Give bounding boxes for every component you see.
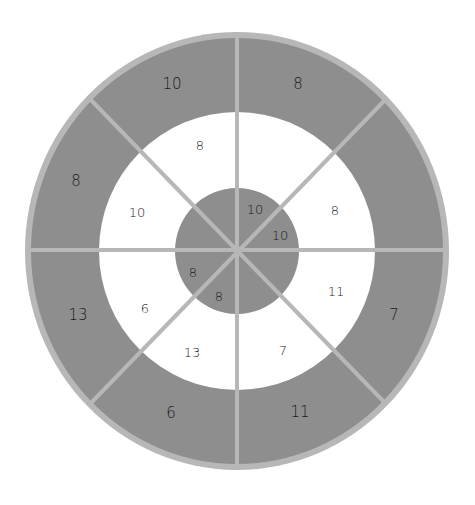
inner-label-right-top: 10: [272, 228, 289, 243]
ring-diagram: 10 8 8 13 7 6 11 8 10 8 11 6 13 7 10 10 …: [0, 0, 475, 505]
middle-label-left-top: 10: [129, 205, 146, 220]
outer-label-top-right: 8: [293, 75, 303, 93]
inner-label-bottom-left: 8: [215, 289, 223, 304]
middle-label-right-bottom: 11: [328, 284, 345, 299]
outer-label-left-bottom: 13: [68, 306, 87, 324]
outer-label-right-bottom: 7: [389, 306, 399, 324]
inner-label-left-bottom: 8: [189, 265, 197, 280]
outer-label-left-top: 8: [71, 172, 81, 190]
outer-label-bottom-left: 6: [166, 404, 176, 422]
inner-label-top-right: 10: [247, 202, 264, 217]
outer-label-top-left: 10: [162, 75, 181, 93]
middle-label-bottom-right: 7: [279, 343, 287, 358]
middle-label-bottom-left: 13: [184, 345, 201, 360]
middle-label-right-top: 8: [331, 203, 339, 218]
middle-label-top-left: 8: [196, 138, 204, 153]
ring-diagram-svg: 10 8 8 13 7 6 11 8 10 8 11 6 13 7 10 10 …: [0, 0, 475, 505]
outer-label-bottom-right: 11: [290, 403, 309, 421]
middle-label-left-bottom: 6: [141, 301, 149, 316]
